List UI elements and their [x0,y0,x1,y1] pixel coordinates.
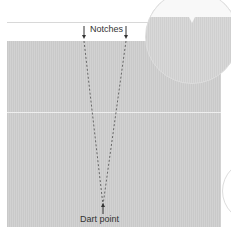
notch-arrow-right-icon [124,26,128,39]
notch-arrow-left-icon [82,26,86,39]
dart-point-arrow-icon [101,203,105,214]
dart-point-label: Dart point [80,214,119,224]
notch-icon [188,15,196,23]
notches-label: Notches [90,24,123,34]
